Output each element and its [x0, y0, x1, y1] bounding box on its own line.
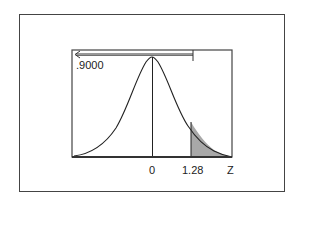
cumulative-probability-label: .9000	[76, 60, 104, 71]
tick-label-critical-z: 1.28	[182, 165, 203, 176]
axis-label-z: Z	[227, 165, 234, 176]
tick-label-mean: 0	[149, 165, 155, 176]
